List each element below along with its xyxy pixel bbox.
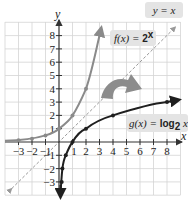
reflection-arrow-icon: [101, 74, 142, 99]
y-tick-label: −1: [43, 149, 55, 161]
logarithmic-label-prefix: g(x) =: [129, 117, 160, 130]
x-tick-label: 1: [71, 145, 77, 157]
identity-label: y = x: [145, 2, 183, 18]
y-tick-label: 6: [50, 56, 56, 68]
x-tick-label: 2: [83, 145, 89, 157]
y-tick-label: −2: [43, 163, 55, 175]
y-tick-label: 4: [50, 83, 56, 95]
x-tick-label: 6: [137, 145, 143, 157]
y-tick-label: 3: [50, 96, 56, 108]
y-tick-label: 2: [50, 109, 56, 121]
y-tick-label: 8: [50, 29, 56, 41]
exponential-label-exponent: x: [148, 29, 154, 40]
y-tick-label: −3: [43, 176, 55, 188]
y-tick-label: 7: [50, 43, 56, 55]
y-tick-label: 5: [50, 69, 56, 81]
logarithmic-label: g(x) = log2 x: [127, 114, 188, 132]
exponential-label-prefix: f(x) =: [114, 32, 142, 45]
x-tick-label: 4: [110, 145, 116, 157]
logarithmic-label-log: log: [160, 118, 175, 129]
x-tick-label: 7: [151, 145, 157, 157]
svg-text:y = x: y = x: [152, 4, 176, 16]
x-tick-label: 8: [164, 145, 170, 157]
x-tick-label: −3: [13, 145, 25, 157]
identity-label-text: y = x: [152, 4, 176, 16]
y-axis-label: y: [54, 7, 61, 21]
chart-canvas: −3 −2 −1 1 2 3 4 5 6 7 8 −1 −2 −3 1 2 3 …: [0, 0, 188, 204]
x-tick-label: −2: [26, 145, 38, 157]
exponential-label: f(x) = 2x: [110, 29, 156, 46]
logarithmic-label-arg: x: [180, 117, 188, 129]
x-tick-label: 3: [97, 145, 103, 157]
identity-line: [12, 27, 176, 189]
x-tick-label: 5: [124, 145, 130, 157]
